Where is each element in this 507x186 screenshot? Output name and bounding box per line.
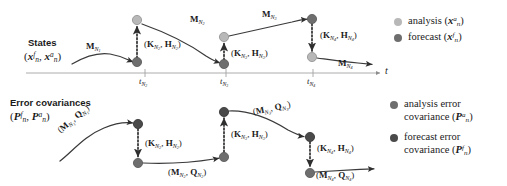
states-time-axis xyxy=(26,69,380,77)
cov-node-analysis-N2 xyxy=(133,158,142,167)
axis-label-t: t xyxy=(385,66,388,77)
cov-node-forecast-N3 xyxy=(219,107,228,116)
covariance-panel-title: Error covariances xyxy=(10,98,91,108)
operator-M-N4: MN4 xyxy=(338,59,353,70)
cov-propagation-N2 xyxy=(143,158,219,163)
state-node-analysis-N2 xyxy=(132,15,141,24)
state-node-forecast-N2 xyxy=(132,57,141,66)
operator-M-N2: MN2 xyxy=(190,15,205,26)
operator-KH-N2: (KN2, HN2) xyxy=(144,40,181,51)
operator-KH-N4-cov: (KN4, HN4) xyxy=(317,144,354,155)
state-node-forecast-N4 xyxy=(307,14,316,23)
state-propagation-N3 xyxy=(229,19,307,36)
legend-label-analysis-error-covariance: analysis error covariance (Pan) xyxy=(404,98,473,124)
operator-KH-N4: (KN4, HN4) xyxy=(320,31,357,42)
legend-item-forecast-error-covariance: forecast error covariance (Pfn) xyxy=(390,131,471,157)
cov-node-analysis-N4 xyxy=(305,168,314,177)
legend-label-analysis: analysis (xan) xyxy=(408,15,464,29)
operator-KH-N3-cov: (KN3, HN3) xyxy=(231,130,268,141)
covariance-panel-subtitle: (Pfn, Pan) xyxy=(10,111,50,124)
tick-label-tN2: tN2 xyxy=(139,77,147,88)
legend-dot-forecast-icon xyxy=(394,34,402,42)
legend-dot-forecast-error-cov-icon xyxy=(390,134,398,142)
legend-item-forecast: forecast (xfn) xyxy=(394,31,462,45)
legend-dot-analysis-icon xyxy=(394,18,402,26)
legend-label-forecast-error-covariance: forecast error covariance (Pfn) xyxy=(404,131,471,157)
cov-node-analysis-N3 xyxy=(219,152,228,161)
tick-label-tN3: tN3 xyxy=(220,77,228,88)
legend-item-analysis-error-covariance: analysis error covariance (Pan) xyxy=(390,98,473,124)
legend-label-forecast: forecast (xfn) xyxy=(408,31,462,45)
operator-MQ-N2: (MN2, QN2) xyxy=(168,168,206,179)
cov-node-forecast-N4 xyxy=(305,132,314,141)
state-node-analysis-N4 xyxy=(307,52,316,61)
state-node-forecast-N3 xyxy=(219,59,228,68)
operator-KH-N2-cov: (KN2, HN2) xyxy=(145,139,182,150)
legend-dot-analysis-error-cov-icon xyxy=(390,101,398,109)
legend-item-analysis: analysis (xan) xyxy=(394,15,464,29)
operator-M-N3: MN3 xyxy=(262,10,277,21)
operator-M-N1: MN1 xyxy=(86,42,101,53)
cov-node-forecast-N2 xyxy=(133,119,142,128)
states-panel-title: States xyxy=(28,38,57,48)
states-panel-subtitle: (xfn, xan) xyxy=(24,51,61,64)
figure-root: States (xfn, xan) MN1 MN2 MN3 MN4 (KN2, … xyxy=(0,0,507,186)
operator-MQ-N4: (MN4, QN4) xyxy=(316,171,354,182)
state-node-analysis-N3 xyxy=(219,32,228,41)
state-propagation-N1 xyxy=(72,54,133,64)
operator-KH-N3: (KN3, HN3) xyxy=(231,49,268,60)
tick-label-tN4: tN4 xyxy=(307,77,315,88)
